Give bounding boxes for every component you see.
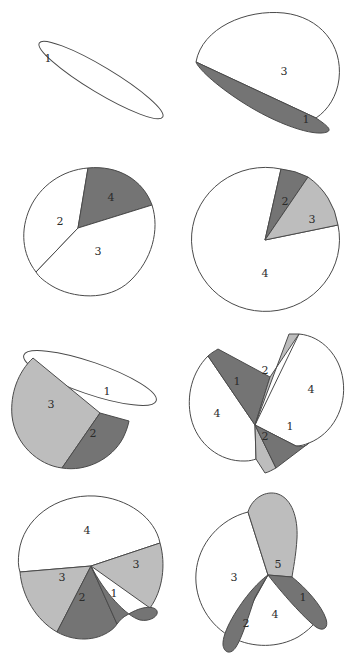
panel-4-label-2: 2 bbox=[282, 195, 289, 208]
panel-3-label-2: 2 bbox=[57, 215, 64, 228]
panel-7-label-3-right: 3 bbox=[133, 558, 140, 571]
panel-1-region-1-shape bbox=[33, 32, 170, 128]
panel-7-label-4: 4 bbox=[84, 524, 91, 537]
panel-5-label-3: 3 bbox=[48, 398, 55, 411]
panel-2-label-1: 1 bbox=[303, 113, 310, 126]
panel-2: 3 1 bbox=[180, 0, 359, 150]
panel-6: 1 2 4 4 2 1 bbox=[180, 320, 359, 480]
panel-8-label-1: 1 bbox=[300, 591, 307, 604]
panel-5: 3 2 1 bbox=[0, 320, 180, 480]
panel-3-label-4: 4 bbox=[108, 191, 115, 204]
panel-4-label-4: 4 bbox=[262, 267, 269, 280]
panel-4: 2 3 4 bbox=[180, 150, 359, 315]
panel-6-label-4-left: 4 bbox=[214, 407, 221, 420]
panel-6-label-4-right: 4 bbox=[308, 383, 315, 396]
panel-7-label-2: 2 bbox=[79, 591, 86, 604]
figure-grid: 1 3 1 2 4 3 bbox=[0, 0, 359, 670]
panel-5-label-1: 1 bbox=[104, 385, 111, 398]
panel-7-label-3-left: 3 bbox=[59, 571, 66, 584]
panel-7-label-1: 1 bbox=[111, 587, 118, 600]
panel-6-label-2-upper: 2 bbox=[262, 364, 269, 377]
panel-8-label-3: 3 bbox=[231, 571, 238, 584]
panel-6-label-1-lower: 1 bbox=[287, 420, 294, 433]
panel-8-label-5: 5 bbox=[275, 558, 282, 571]
panel-3-label-3: 3 bbox=[95, 245, 102, 258]
panel-6-label-1-upper: 1 bbox=[234, 375, 241, 388]
panel-8-label-2: 2 bbox=[243, 617, 250, 630]
panel-1: 1 bbox=[0, 0, 180, 150]
panel-4-label-3: 3 bbox=[309, 213, 316, 226]
panel-6-label-2-lower: 2 bbox=[262, 430, 269, 443]
panel-7: 4 3 3 2 1 bbox=[0, 480, 180, 670]
panel-2-label-3: 3 bbox=[281, 65, 288, 78]
panel-3: 2 4 3 bbox=[0, 150, 180, 315]
panel-8: 5 3 1 2 4 bbox=[180, 480, 359, 670]
panel-1-label-1: 1 bbox=[45, 52, 52, 65]
panel-8-label-4: 4 bbox=[272, 608, 279, 621]
panel-5-label-2: 2 bbox=[90, 427, 97, 440]
